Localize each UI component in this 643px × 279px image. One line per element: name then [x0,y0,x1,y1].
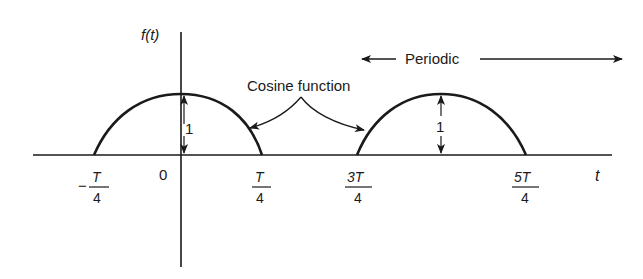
origin-label: 0 [159,166,167,183]
tick-3t-over-4: 3T 4 [345,169,372,206]
amplitude-label-1: 1 [185,120,193,137]
periodic-label: Periodic [405,50,460,67]
cosine-arch-1 [94,94,262,155]
svg-text:4: 4 [354,190,362,206]
tick-neg-t-over-4: − T 4 [78,169,109,206]
x-axis-label: t [595,167,600,184]
svg-text:5T: 5T [514,169,532,185]
annotation-arrow-left [250,97,301,128]
svg-text:4: 4 [93,190,101,206]
svg-text:−: − [78,177,87,194]
annotation-arrow-right [301,97,364,130]
annotation-label: Cosine function [247,77,350,94]
diagram-canvas: f(t) t 0 Cosine function Periodic 1 1 − … [0,0,643,279]
tick-5t-over-4: 5T 4 [512,169,539,206]
tick-t-over-4: T 4 [252,169,271,206]
svg-text:4: 4 [521,190,529,206]
amplitude-label-2: 1 [436,118,444,135]
svg-text:T: T [92,169,102,185]
svg-text:T: T [255,169,265,185]
svg-text:4: 4 [256,190,264,206]
svg-text:3T: 3T [347,169,365,185]
y-axis-label: f(t) [141,26,159,43]
